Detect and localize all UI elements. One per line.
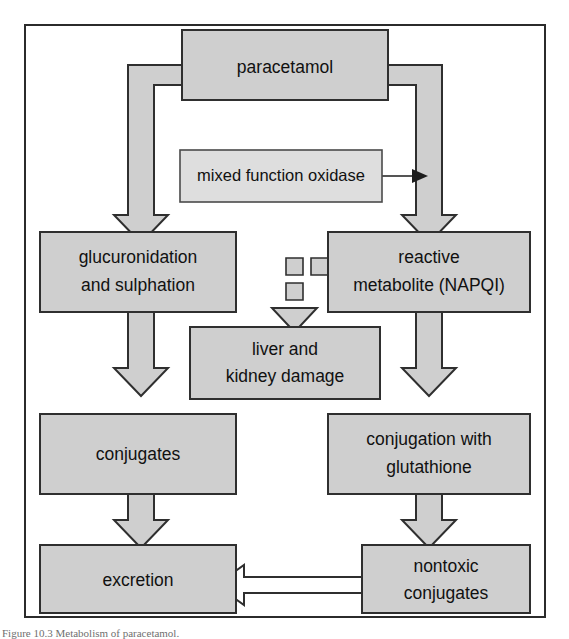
node-paracetamol-label: paracetamol [237,57,333,77]
dashed-segment-2 [286,258,303,275]
dashed-segment-3 [286,283,303,300]
arrow-conjugation-to-nontoxic [402,494,456,548]
node-conjugates-label: conjugates [96,444,181,464]
node-reactive-metabolite-line2: metabolite (NAPQI) [353,275,505,295]
node-conjugation-line2: glutathione [386,457,472,477]
arrow-paracetamol-to-glucuronidation [114,65,182,243]
node-liver-damage-line1: liver and [252,339,318,359]
node-glucuronidation-line1: glucuronidation [79,247,198,267]
figure-caption: Figure 10.3 Metabolism of paracetamol. [2,627,567,639]
arrow-nontoxic-to-excretion [216,565,362,605]
arrow-reactive-metabolite-to-conjugation [402,312,456,396]
node-conjugation-with-glutathione[interactable] [328,414,530,494]
node-nontoxic-line2: conjugates [404,583,489,603]
arrow-glucuronidation-to-conjugates [114,312,168,396]
node-excretion-label: excretion [102,570,173,590]
arrow-paracetamol-to-reactive-metabolite [388,65,456,243]
arrow-conjugates-to-excretion [114,494,168,548]
node-glucuronidation-line2: and sulphation [81,275,195,295]
node-glucuronidation-and-sulphation[interactable] [40,232,236,312]
node-reactive-metabolite-line1: reactive [398,247,459,267]
node-mixed-function-oxidase-label: mixed function oxidase [197,166,365,184]
node-nontoxic-line1: nontoxic [413,556,478,576]
node-liver-damage-line2: kidney damage [226,366,345,386]
node-reactive-metabolite[interactable] [328,232,530,312]
node-conjugation-line1: conjugation with [366,429,492,449]
dashed-segment-1 [311,258,328,275]
